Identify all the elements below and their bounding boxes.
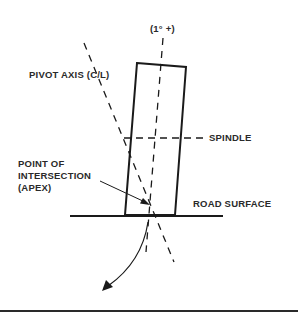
rotation-arrowhead-icon bbox=[102, 280, 113, 291]
camber-reference-line bbox=[146, 38, 163, 252]
camber-angle-label: (1° +) bbox=[150, 23, 175, 34]
spindle-label: SPINDLE bbox=[209, 132, 252, 143]
road-surface-label: ROAD SURFACE bbox=[193, 198, 271, 209]
wheel-outline bbox=[125, 63, 186, 215]
apex-label-line1: POINT OF bbox=[18, 158, 64, 169]
apex-label-line2: INTERSECTION bbox=[18, 170, 91, 181]
apex-leader-line bbox=[100, 181, 145, 202]
apex-label-line3: (APEX) bbox=[18, 182, 51, 193]
rotation-arc bbox=[108, 222, 148, 286]
steering-geometry-diagram: (1° +) PIVOT AXIS (C/L) SPINDLE POINT OF… bbox=[0, 0, 298, 315]
pivot-axis-label: PIVOT AXIS (C/L) bbox=[29, 69, 109, 80]
